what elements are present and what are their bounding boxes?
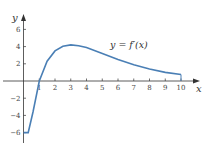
- y-tick-label: −6: [10, 129, 21, 137]
- x-tick-label: 5: [100, 84, 104, 92]
- x-tick-label: 4: [84, 84, 89, 92]
- y-tick-label: −2: [10, 95, 20, 103]
- x-tick-label: 7: [132, 84, 136, 92]
- y-tick-label: 2: [16, 60, 20, 68]
- chart: 12345678910 −6−4−2246 x y y = f′(x): [0, 0, 211, 151]
- y-tick-label: 4: [16, 43, 21, 51]
- x-ticks: 12345678910: [37, 79, 185, 93]
- y-tick-label: −4: [10, 112, 21, 120]
- x-tick-label: 8: [147, 84, 151, 92]
- x-tick-label: 10: [177, 84, 186, 92]
- x-axis-label: x: [196, 83, 202, 94]
- y-axis-label: y: [11, 12, 18, 23]
- x-tick-label: 9: [163, 84, 167, 92]
- x-tick-label: 6: [116, 84, 121, 92]
- curve-label: y = f′(x): [109, 39, 148, 50]
- x-tick-label: 3: [69, 84, 73, 92]
- y-axis-arrow-icon: [21, 14, 26, 21]
- x-tick-label: 2: [53, 84, 57, 92]
- y-tick-label: 6: [16, 26, 21, 34]
